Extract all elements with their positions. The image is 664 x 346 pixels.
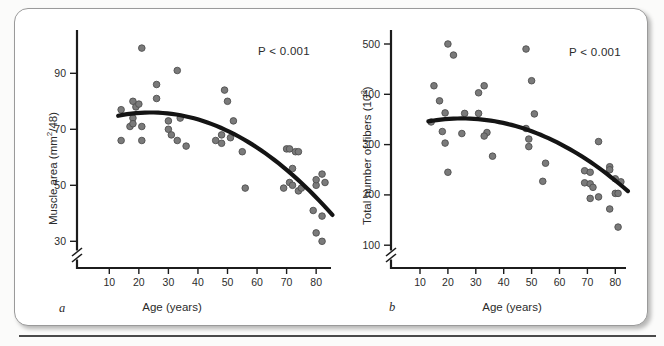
data-point-b xyxy=(526,143,533,150)
y-tick-label-b: 100 xyxy=(362,239,380,251)
p-value-annotation-b: P < 0.001 xyxy=(545,46,645,58)
data-point-a xyxy=(130,120,137,127)
data-point-b xyxy=(587,195,594,202)
x-tick-label-a: 70 xyxy=(281,276,293,288)
x-tick-label-b: 10 xyxy=(414,276,426,288)
x-tick-label-a: 20 xyxy=(133,276,145,288)
y-tick-label-a: 30 xyxy=(54,235,66,247)
data-point-a xyxy=(319,213,326,220)
data-point-b xyxy=(481,82,488,89)
data-point-b xyxy=(595,194,602,201)
data-point-b xyxy=(531,111,538,118)
data-point-a xyxy=(153,95,160,102)
figure-panel: 1020304050607080305070901020304050607080… xyxy=(14,8,648,326)
y-axis-label-b: Total number of fibers (103) xyxy=(359,86,373,225)
data-point-a xyxy=(174,137,181,144)
data-point-b xyxy=(450,52,457,59)
x-tick-label-b: 50 xyxy=(526,276,538,288)
data-point-b xyxy=(523,46,530,53)
x-axis-label-b: Age (years) xyxy=(452,301,572,313)
data-point-b xyxy=(615,190,622,197)
data-point-b xyxy=(542,160,549,167)
y-tick-label-b: 500 xyxy=(362,38,380,50)
data-point-a xyxy=(153,81,160,88)
data-point-b xyxy=(436,98,443,105)
data-point-b xyxy=(595,138,602,145)
data-point-b xyxy=(606,206,613,213)
data-point-a xyxy=(319,238,326,245)
data-point-a xyxy=(139,123,146,130)
x-tick-label-a: 30 xyxy=(163,276,175,288)
bottom-rule xyxy=(19,335,656,337)
data-point-a xyxy=(218,132,225,139)
data-point-a xyxy=(165,118,172,125)
x-tick-label-b: 40 xyxy=(498,276,510,288)
data-point-a xyxy=(230,118,237,125)
data-point-a xyxy=(218,140,225,147)
data-point-a xyxy=(242,185,249,192)
data-point-b xyxy=(442,110,449,117)
data-point-a xyxy=(118,137,125,144)
data-point-a xyxy=(313,230,320,237)
data-point-a xyxy=(168,132,175,139)
data-point-b xyxy=(528,77,535,84)
data-point-a xyxy=(319,171,326,178)
x-tick-label-a: 10 xyxy=(103,276,115,288)
data-point-b xyxy=(587,169,594,176)
data-point-a xyxy=(313,176,320,183)
data-point-b xyxy=(526,136,533,143)
x-tick-label-a: 40 xyxy=(192,276,204,288)
data-point-b xyxy=(489,153,496,160)
x-tick-label-b: 70 xyxy=(582,276,594,288)
x-tick-label-b: 20 xyxy=(442,276,454,288)
data-point-a xyxy=(295,148,302,155)
y-tick-label-a: 90 xyxy=(54,67,66,79)
data-point-b xyxy=(442,140,449,147)
data-point-a xyxy=(118,106,125,113)
data-point-a xyxy=(136,101,143,108)
data-point-b xyxy=(439,128,446,135)
data-point-a xyxy=(280,185,287,192)
trend-curve-a xyxy=(118,113,332,215)
data-point-a xyxy=(174,67,181,74)
data-point-b xyxy=(445,169,452,176)
data-point-b xyxy=(615,224,622,231)
data-point-b xyxy=(475,110,482,117)
panel-letter-b: b xyxy=(389,300,395,315)
panel-letter-a: a xyxy=(59,301,65,316)
data-point-a xyxy=(221,87,228,94)
data-point-a xyxy=(183,143,190,150)
data-point-a xyxy=(139,137,146,144)
data-point-b xyxy=(459,130,466,137)
data-point-b xyxy=(431,82,438,89)
data-point-a xyxy=(322,179,329,186)
data-point-b xyxy=(461,110,468,117)
data-point-a xyxy=(310,207,317,214)
x-tick-label-a: 80 xyxy=(310,276,322,288)
x-tick-label-a: 60 xyxy=(251,276,263,288)
data-point-b xyxy=(445,41,452,48)
data-point-b xyxy=(475,89,482,96)
data-point-a xyxy=(289,182,296,189)
x-tick-label-a: 50 xyxy=(222,276,234,288)
data-point-b xyxy=(481,133,488,140)
p-value-annotation-a: P < 0.001 xyxy=(234,45,334,57)
data-point-a xyxy=(239,148,246,155)
data-point-a xyxy=(139,45,146,52)
x-tick-label-b: 80 xyxy=(609,276,621,288)
data-point-a xyxy=(224,98,231,105)
y-axis-label-a: Muscle area (mm2/48) xyxy=(45,112,59,225)
trend-curve-b xyxy=(428,118,628,191)
data-point-b xyxy=(590,184,597,191)
x-tick-label-b: 60 xyxy=(554,276,566,288)
x-tick-label-b: 30 xyxy=(470,276,482,288)
x-axis-label-a: Age (years) xyxy=(112,301,232,313)
data-point-b xyxy=(539,178,546,185)
